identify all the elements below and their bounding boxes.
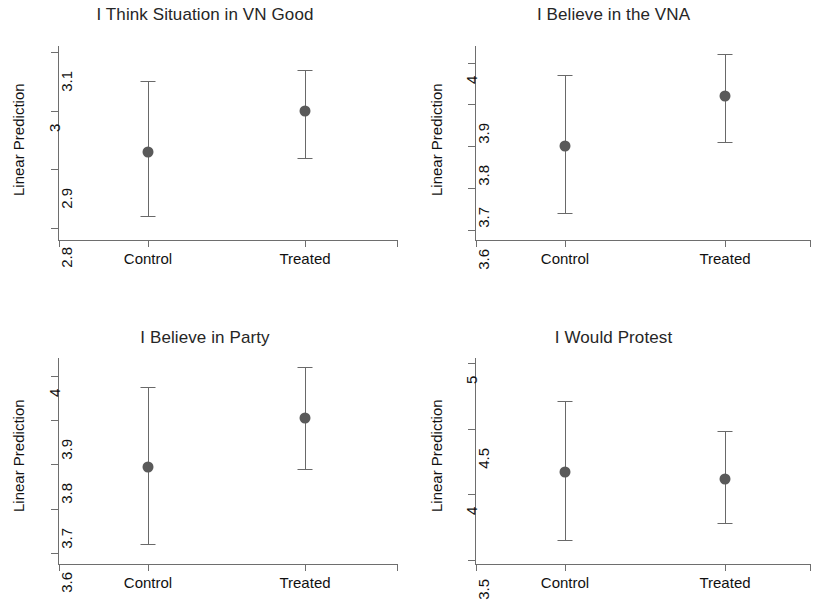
data-point-marker <box>143 146 154 157</box>
confidence-interval-cap-upper <box>718 54 733 55</box>
y-tick-mark <box>51 420 58 421</box>
x-tick-mark <box>725 564 726 571</box>
confidence-interval-cap-upper <box>298 70 313 71</box>
x-tick-mark <box>59 564 60 571</box>
confidence-interval-cap-lower <box>558 213 573 214</box>
y-tick-label: 3.7 <box>58 528 75 549</box>
y-tick-mark <box>468 63 475 64</box>
confidence-interval-cap-lower <box>141 216 156 217</box>
x-tick-mark <box>397 240 398 247</box>
plot-area: 3.63.73.83.94ControlTreated <box>58 358 398 564</box>
y-tick-mark <box>468 146 475 147</box>
confidence-interval-cap-lower <box>141 544 156 545</box>
panel-title: I Would Protest <box>410 328 817 348</box>
confidence-interval-cap-upper <box>141 81 156 82</box>
data-point-marker <box>300 105 311 116</box>
panel-title: I Believe in Party <box>0 328 410 348</box>
y-tick-label: 4 <box>463 507 480 515</box>
y-tick-mark <box>468 429 475 430</box>
data-point-marker <box>143 461 154 472</box>
y-tick-label: 2.9 <box>58 188 75 209</box>
y-tick-mark <box>51 228 58 229</box>
y-tick-mark <box>51 553 58 554</box>
confidence-interval-cap-upper <box>718 431 733 432</box>
plot-area: 3.544.55ControlTreated <box>475 358 811 564</box>
y-tick-label: 3.8 <box>58 483 75 504</box>
confidence-interval-cap-upper <box>558 401 573 402</box>
confidence-interval-cap-lower <box>558 540 573 541</box>
x-axis-line <box>475 240 811 241</box>
y-tick-label: 3.7 <box>475 207 492 228</box>
y-axis-label: Linear Prediction <box>428 83 445 196</box>
confidence-interval-cap-upper <box>298 367 313 368</box>
panel-title: I Think Situation in VN Good <box>0 5 410 25</box>
confidence-interval-cap-lower <box>298 158 313 159</box>
y-tick-mark <box>51 169 58 170</box>
y-tick-label: 3.5 <box>475 579 492 600</box>
y-tick-label: 3.1 <box>58 71 75 92</box>
x-tick-mark <box>305 564 306 571</box>
x-axis-line <box>58 240 398 241</box>
y-tick-mark <box>51 464 58 465</box>
y-tick-mark <box>468 560 475 561</box>
x-tick-mark <box>305 240 306 247</box>
y-tick-label: 3.6 <box>58 572 75 593</box>
y-tick-mark <box>51 376 58 377</box>
x-tick-mark <box>148 564 149 571</box>
x-tick-mark <box>565 240 566 247</box>
y-tick-label: 3.6 <box>475 248 492 269</box>
plot-area: 3.63.73.83.94ControlTreated <box>475 46 811 240</box>
data-point-marker <box>720 473 731 484</box>
y-tick-mark <box>51 52 58 53</box>
y-axis-label: Linear Prediction <box>10 399 27 512</box>
panel-title: I Believe in the VNA <box>410 5 817 25</box>
x-tick-label-treated: Treated <box>699 250 750 267</box>
x-tick-label-treated: Treated <box>279 250 330 267</box>
x-tick-label-treated: Treated <box>279 574 330 591</box>
x-tick-mark <box>725 240 726 247</box>
x-tick-label-treated: Treated <box>699 574 750 591</box>
data-point-marker <box>560 467 571 478</box>
data-point-marker <box>720 91 731 102</box>
y-tick-mark <box>468 363 475 364</box>
x-tick-mark <box>397 564 398 571</box>
x-tick-label-control: Control <box>541 574 589 591</box>
data-point-marker <box>560 141 571 152</box>
y-tick-label: 2.8 <box>58 247 75 268</box>
y-tick-label: 5 <box>463 376 480 384</box>
y-tick-label: 4 <box>46 388 63 396</box>
y-tick-mark <box>51 111 58 112</box>
y-tick-label: 3.9 <box>58 439 75 460</box>
x-tick-mark <box>476 564 477 571</box>
x-tick-mark <box>148 240 149 247</box>
chart-panel-1: I Think Situation in VN GoodLinear Predi… <box>0 0 410 290</box>
x-tick-label-control: Control <box>124 250 172 267</box>
chart-panel-4: I Would ProtestLinear Prediction3.544.55… <box>410 290 817 585</box>
x-tick-mark <box>810 564 811 571</box>
x-tick-label-control: Control <box>541 250 589 267</box>
confidence-interval-cap-lower <box>298 469 313 470</box>
x-tick-label-control: Control <box>124 574 172 591</box>
y-axis-label: Linear Prediction <box>428 399 445 512</box>
confidence-interval-cap-upper <box>141 387 156 388</box>
y-axis-label: Linear Prediction <box>10 83 27 196</box>
y-tick-mark <box>468 230 475 231</box>
confidence-interval-cap-upper <box>558 75 573 76</box>
x-axis-line <box>475 564 811 565</box>
y-tick-label: 3 <box>46 123 63 131</box>
y-tick-label: 4 <box>463 75 480 83</box>
y-tick-label: 4.5 <box>475 448 492 469</box>
x-tick-mark <box>565 564 566 571</box>
chart-panel-3: I Believe in PartyLinear Prediction3.63.… <box>0 290 410 585</box>
y-tick-mark <box>468 104 475 105</box>
x-tick-mark <box>810 240 811 247</box>
y-tick-mark <box>468 494 475 495</box>
chart-panel-2: I Believe in the VNALinear Prediction3.6… <box>410 0 817 290</box>
y-tick-mark <box>51 509 58 510</box>
y-tick-mark <box>468 188 475 189</box>
y-tick-label: 3.9 <box>475 123 492 144</box>
data-point-marker <box>300 412 311 423</box>
x-tick-mark <box>476 240 477 247</box>
x-axis-line <box>58 564 398 565</box>
